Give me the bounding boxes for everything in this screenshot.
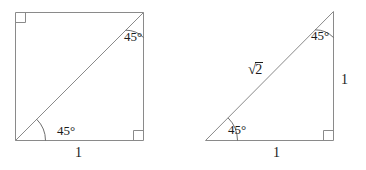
square-angle-label-top-right: 45° (124, 30, 142, 43)
radicand-value: 2 (255, 62, 263, 77)
triangle-side-label-bottom: 1 (273, 146, 280, 160)
angle-arc-bottom-left (37, 119, 46, 140)
figure-canvas (0, 0, 366, 170)
triangle-angle-label-bottom-left: 45° (228, 123, 246, 136)
right-angle-mark-bottom-right (134, 131, 144, 141)
radical-expression: √2 (248, 61, 263, 77)
geometry-figure: 45° 45° 1 45° 45° 1 1 √2 (0, 0, 366, 170)
triangle-side-label-right: 1 (341, 73, 348, 87)
triangle-angle-label-apex: 45° (311, 29, 329, 42)
triangle-hypotenuse-label: √2 (248, 61, 263, 77)
square-angle-label-bottom-left: 45° (57, 124, 75, 137)
right-angle-mark-top-left (16, 13, 26, 23)
right-angle-mark-bottom-right-triangle (324, 131, 334, 141)
square-side-label-bottom: 1 (75, 146, 82, 160)
